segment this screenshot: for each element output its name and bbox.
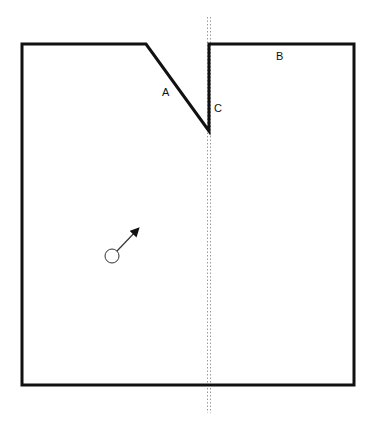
reflection-diagram: A B C: [0, 0, 374, 423]
label-c: C: [214, 102, 222, 114]
direction-arrow: [117, 229, 138, 251]
label-a: A: [162, 86, 170, 98]
ball: [105, 229, 138, 263]
room-outline: [22, 44, 354, 385]
label-b: B: [276, 50, 283, 62]
